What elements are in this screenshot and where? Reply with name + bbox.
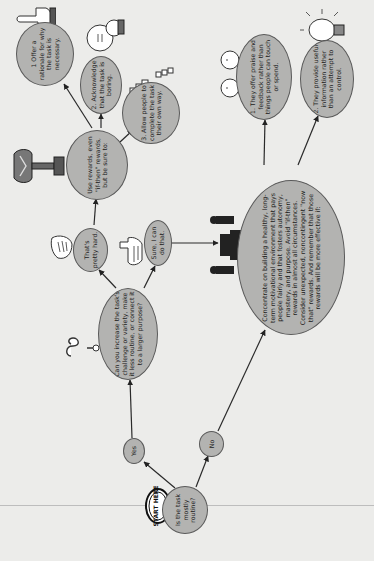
node-allow-label: 3. Allow people to complete the task the… [140,85,163,141]
node-yes: Yes [123,438,145,464]
node-offer-rationale: 1 Offer a rationale for why the task is … [16,22,74,86]
node-increase-label: Can you increase the task's challenge or… [113,291,143,377]
node-use-rewards-label: Use rewards, even "if-then" rewards, but… [86,135,109,195]
question-mark-icon [63,334,101,362]
node-yes-label: Yes [130,441,138,461]
trophy-icon [12,146,68,186]
node-increase-challenge: Can you increase the task's challenge or… [98,288,158,380]
node-start-label: Is the task mostly routine? [174,490,197,530]
node-allow-own-way: 3. Allow people to complete the task the… [122,82,180,144]
node-sure-label: Sure, I can do that. [150,223,165,263]
node-sure-i-can: Sure, I can do that. [144,220,172,266]
node-concentrate-label: Concentrate on building a healthy, long-… [261,189,322,327]
node-concentrate-environment: Concentrate on building a healthy, long-… [237,180,345,335]
svg-text:START HERE: START HERE [152,486,159,526]
node-no-label: No [208,434,216,454]
flowchart-canvas: START HERE Is the task mostly routine? Y… [0,0,374,561]
bored-face-icon [84,16,126,56]
node-hard-label: That's pretty hard. [83,231,98,269]
node-praise-label: 1. They offer praise and feedback rather… [249,38,279,116]
pointing-hand-icon [118,234,146,268]
node-no: No [199,431,224,457]
thumbs-down-hand-icon [48,232,74,262]
node-acknowledge-label: 2. Acknowledge that the task is boring. [90,56,113,114]
node-start-question: Is the task mostly routine? [162,486,208,534]
node-useful-information: 2. They provide useful information rathe… [300,40,354,118]
node-use-rewards: Use rewards, even "if-then" rewards, but… [66,130,128,200]
node-thats-pretty-hard: That's pretty hard. [73,228,108,272]
node-offer-rationale-label: 1 Offer a rationale for why the task is … [30,26,60,82]
node-provide-info-label: 2. They provide useful information rathe… [312,44,342,114]
node-praise-feedback: 1. They offer praise and feedback rather… [236,34,292,120]
node-acknowledge-boring: 2. Acknowledge that the task is boring. [80,56,122,114]
